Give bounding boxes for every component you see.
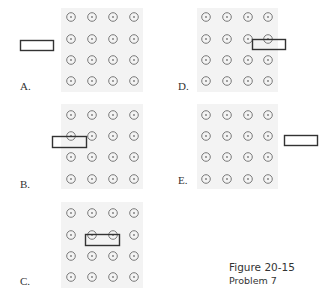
- figure-caption: Figure 20-15 Problem 7: [229, 262, 295, 285]
- panel-b: [53, 104, 144, 189]
- panel-label-d: D.: [178, 80, 189, 92]
- panel-label-e: E.: [178, 174, 187, 186]
- panel-a: [21, 8, 144, 92]
- panel-label-c: C.: [20, 275, 30, 287]
- panel-c: [61, 202, 143, 288]
- panel-e: [197, 104, 318, 189]
- conducting-loop: [21, 41, 54, 51]
- panel-d: [197, 8, 286, 92]
- figure-canvas: [0, 0, 336, 302]
- figure-title: Figure 20-15: [229, 262, 295, 273]
- conducting-loop: [285, 136, 318, 146]
- panel-label-a: A.: [20, 80, 31, 92]
- panel-label-b: B.: [20, 178, 30, 190]
- figure-subtitle: Problem 7: [229, 276, 295, 286]
